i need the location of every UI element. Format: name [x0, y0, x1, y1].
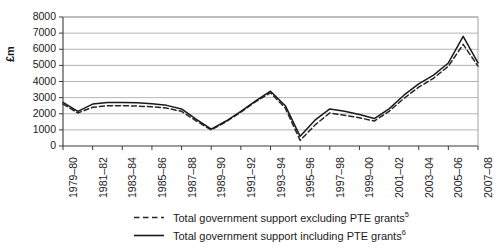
legend-item-excluding: Total government support excluding PTE g… — [134, 208, 464, 226]
legend-footnote-including: 6 — [402, 228, 406, 237]
x-tick-label: 1987–88 — [186, 157, 198, 198]
legend-text-excluding: Total government support excluding PTE g… — [173, 211, 405, 223]
series-line-including-pte — [63, 36, 478, 136]
x-tick-label: 1991–92 — [245, 157, 257, 198]
legend-text-including: Total government support including PTE g… — [173, 229, 402, 241]
y-tick-label: 8000 — [12, 10, 56, 22]
y-axis-ticks — [59, 17, 63, 146]
solid-line-swatch-icon — [134, 231, 164, 240]
x-tick-label: 1989–90 — [215, 157, 227, 198]
y-tick-label: 0 — [12, 139, 56, 151]
x-tick-label: 1995–96 — [304, 157, 316, 198]
legend-label-excluding: Total government support excluding PTE g… — [173, 211, 409, 224]
y-tick-label: 3000 — [12, 91, 56, 103]
x-tick-label: 2005–06 — [452, 157, 464, 198]
x-tick-label: 1999–00 — [363, 157, 375, 198]
x-tick-label: 2003–04 — [423, 157, 435, 198]
x-tick-label: 2001–02 — [393, 157, 405, 198]
y-tick-label: 6000 — [12, 42, 56, 54]
gridlines — [63, 17, 478, 130]
y-tick-label: 1000 — [12, 123, 56, 135]
legend-footnote-excluding: 5 — [405, 210, 409, 219]
dashed-line-swatch-icon — [134, 213, 164, 222]
x-axis-ticks — [63, 146, 478, 150]
x-tick-label: 1997–98 — [334, 157, 346, 198]
chart-legend: Total government support excluding PTE g… — [134, 208, 464, 244]
x-tick-label: 1981–82 — [97, 157, 109, 198]
y-tick-label: 7000 — [12, 26, 56, 38]
y-tick-label: 2000 — [12, 107, 56, 119]
y-tick-label: 4000 — [12, 75, 56, 87]
legend-item-including: Total government support including PTE g… — [134, 226, 464, 244]
y-tick-label: 5000 — [12, 58, 56, 70]
data-series-layer — [63, 36, 478, 140]
x-tick-label: 1985–86 — [156, 157, 168, 198]
series-line-excluding-pte — [63, 44, 478, 140]
x-tick-label: 1983–84 — [126, 157, 138, 198]
x-tick-label: 1979–80 — [67, 157, 79, 198]
legend-label-including: Total government support including PTE g… — [173, 229, 406, 242]
x-tick-label: 2007–08 — [482, 157, 494, 198]
x-tick-label: 1993–94 — [275, 157, 287, 198]
